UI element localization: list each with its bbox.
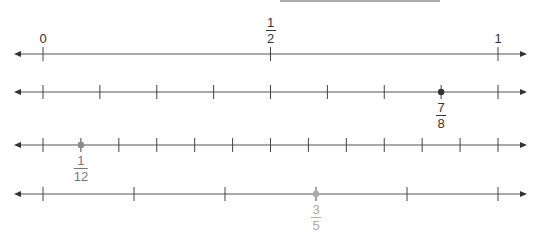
right-arrow-icon	[520, 51, 527, 57]
point-label-3-5: 35	[311, 203, 321, 232]
point-marker	[313, 191, 319, 197]
label-0: 0	[39, 32, 46, 45]
denominator: 12	[74, 170, 88, 183]
numerator: 7	[438, 101, 445, 114]
left-arrow-icon	[14, 191, 21, 197]
right-arrow-icon	[520, 191, 527, 197]
numerator: 1	[77, 154, 84, 167]
left-arrow-icon	[14, 51, 21, 57]
denominator: 5	[312, 219, 319, 232]
numerator: 1	[267, 16, 274, 29]
numerator: 3	[312, 203, 319, 216]
number-lines-diagram: 01217811235	[0, 0, 538, 232]
point-label-1-12: 112	[74, 154, 88, 183]
denominator: 8	[438, 117, 445, 130]
left-arrow-icon	[14, 142, 21, 148]
label-1-2: 12	[266, 16, 276, 45]
right-arrow-icon	[520, 89, 527, 95]
left-arrow-icon	[14, 89, 21, 95]
point-marker	[78, 142, 84, 148]
point-marker	[438, 89, 444, 95]
denominator: 2	[267, 32, 274, 45]
right-arrow-icon	[520, 142, 527, 148]
point-label-7-8: 78	[436, 101, 446, 130]
label-1: 1	[494, 32, 501, 45]
